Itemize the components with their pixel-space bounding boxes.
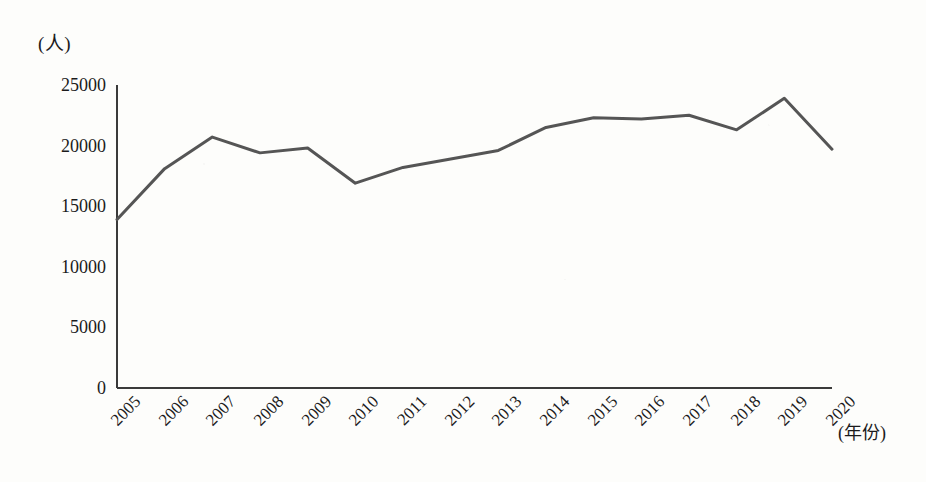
x-axis-tick-label: 2013 [476, 392, 527, 443]
x-axis-tick-label: 2018 [714, 392, 765, 443]
x-axis-tick-label: 2011 [380, 392, 431, 443]
x-axis-tick-label: 2008 [237, 392, 288, 443]
x-axis-tick-label: 2016 [619, 392, 670, 443]
y-axis-tick-label: 5000 [34, 317, 106, 338]
y-axis-tick-label: 15000 [34, 196, 106, 217]
y-axis-tick-label: 25000 [34, 75, 106, 96]
plot-area [117, 85, 832, 388]
series-polyline [117, 98, 832, 219]
x-axis-tick-label: 2012 [428, 392, 479, 443]
series-line-people-count [117, 85, 832, 388]
x-axis-tick-label: 2009 [285, 392, 336, 443]
x-axis-tick-label: 2015 [571, 392, 622, 443]
x-axis-tick-label: 2007 [190, 392, 241, 443]
x-axis-tick-label: 2014 [523, 392, 574, 443]
y-axis-tick-label: 20000 [34, 135, 106, 156]
line-chart-figure: (人) 0500010000150002000025000 2005200620… [0, 0, 926, 482]
y-axis-tick-label-group: 0500010000150002000025000 [34, 0, 106, 482]
x-axis-caption: (年份) [838, 418, 886, 444]
x-axis-tick-label-group: 2005200620072008200920102011201220132014… [117, 392, 832, 462]
x-axis-tick-label: 2019 [762, 392, 813, 443]
x-axis-tick-label: 2010 [333, 392, 384, 443]
y-axis-tick-label: 0 [34, 378, 106, 399]
x-axis-tick-label: 2006 [142, 392, 193, 443]
y-axis-tick-label: 10000 [34, 256, 106, 277]
x-axis-tick-label: 2017 [666, 392, 717, 443]
